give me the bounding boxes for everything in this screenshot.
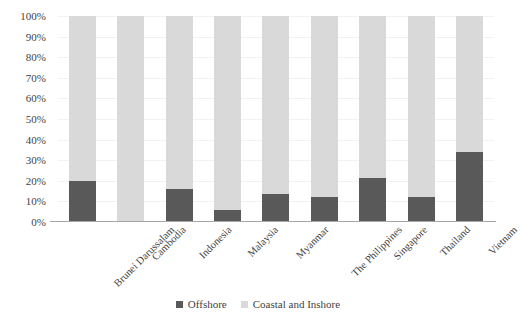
x-axis-tick-label: Myanmar: [294, 224, 331, 261]
bar-stack[interactable]: [359, 16, 386, 222]
x-axis-labels: Brunei DarussalamCambodiaIndonesiaMalays…: [58, 224, 494, 294]
bar-segment-offshore[interactable]: [311, 197, 338, 222]
bar-segment-offshore[interactable]: [408, 197, 435, 222]
bar-segment-offshore[interactable]: [166, 189, 193, 222]
y-axis-tick-label: 50%: [26, 114, 46, 125]
bar-segment-coastal-and-inshore[interactable]: [408, 16, 435, 197]
plot-area: [58, 16, 494, 222]
bar-segment-offshore[interactable]: [69, 181, 96, 222]
bar-slot[interactable]: [203, 16, 251, 222]
bar-stack[interactable]: [456, 16, 483, 222]
bar-segment-coastal-and-inshore[interactable]: [359, 16, 386, 178]
x-axis-tick-label: Malaysia: [245, 224, 281, 260]
bar-slot[interactable]: [397, 16, 445, 222]
y-axis-tick-label: 30%: [26, 155, 46, 166]
bar-stack[interactable]: [117, 16, 144, 222]
y-axis-tick-label: 60%: [26, 93, 46, 104]
legend-item[interactable]: Coastal and Inshore: [241, 298, 340, 310]
bar-segment-coastal-and-inshore[interactable]: [456, 16, 483, 152]
x-axis-tick-label: Vietnam: [486, 224, 520, 258]
bar-slot[interactable]: [106, 16, 154, 222]
y-axis-tick-label: 100%: [20, 11, 46, 22]
bar-segment-coastal-and-inshore[interactable]: [166, 16, 193, 189]
y-axis-tick-label: 40%: [26, 134, 46, 145]
bar-slot[interactable]: [446, 16, 494, 222]
x-axis-tick-label: Indonesia: [197, 224, 234, 261]
x-axis-tick-label: Thailand: [438, 224, 473, 259]
legend-label: Offshore: [188, 298, 227, 310]
bar-slot[interactable]: [58, 16, 106, 222]
bar-segment-coastal-and-inshore[interactable]: [311, 16, 338, 197]
bar-stack[interactable]: [408, 16, 435, 222]
bar-segment-coastal-and-inshore[interactable]: [117, 16, 144, 222]
bar-stack[interactable]: [262, 16, 289, 222]
chart-legend: OffshoreCoastal and Inshore: [0, 298, 516, 310]
y-axis-tick-label: 90%: [26, 31, 46, 42]
legend-label: Coastal and Inshore: [253, 298, 340, 310]
bar-stack[interactable]: [166, 16, 193, 222]
legend-swatch-icon: [176, 301, 183, 308]
y-axis-tick-label: 0%: [31, 217, 46, 228]
bar-slot[interactable]: [155, 16, 203, 222]
x-axis-tick-label: Brunei Darussalam: [112, 224, 178, 290]
bar-segment-coastal-and-inshore[interactable]: [214, 16, 241, 210]
bar-slot[interactable]: [252, 16, 300, 222]
bar-slot[interactable]: [349, 16, 397, 222]
bar-segment-offshore[interactable]: [359, 178, 386, 222]
bar-segment-offshore[interactable]: [456, 152, 483, 222]
y-axis-tick-label: 70%: [26, 72, 46, 83]
bar-stack[interactable]: [69, 16, 96, 222]
bar-stack[interactable]: [214, 16, 241, 222]
bar-slot[interactable]: [300, 16, 348, 222]
y-axis-tick-label: 10%: [26, 196, 46, 207]
bar-segment-offshore[interactable]: [262, 194, 289, 222]
bar-segment-coastal-and-inshore[interactable]: [69, 16, 96, 181]
bar-series-group: [58, 16, 494, 222]
y-axis: 0%10%20%30%40%50%60%70%80%90%100%: [0, 16, 52, 222]
y-axis-tick-label: 20%: [26, 175, 46, 186]
legend-swatch-icon: [241, 301, 248, 308]
bar-segment-coastal-and-inshore[interactable]: [262, 16, 289, 194]
y-axis-tick-label: 80%: [26, 52, 46, 63]
legend-item[interactable]: Offshore: [176, 298, 227, 310]
x-axis-line: [50, 221, 496, 222]
bar-stack[interactable]: [311, 16, 338, 222]
